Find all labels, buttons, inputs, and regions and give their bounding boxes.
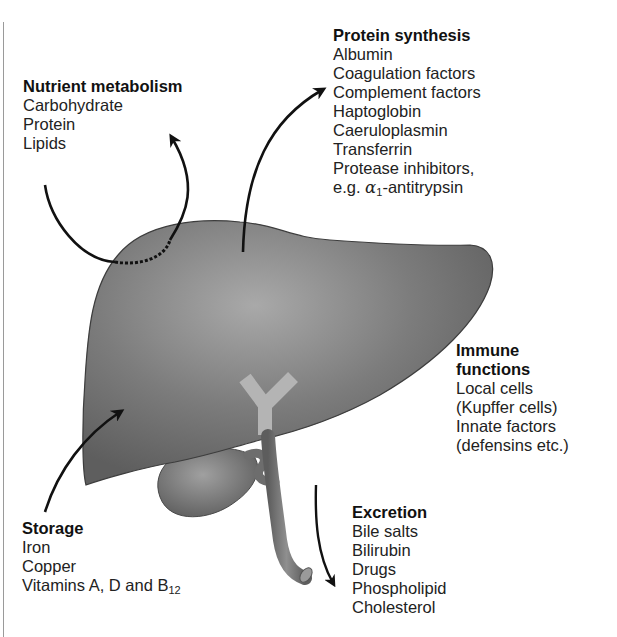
protein-item: Caeruloplasmin [333,121,481,140]
antitrypsin-suffix: -antitrypsin [382,178,463,196]
immune-title-line2: functions [456,360,569,379]
storage-label: Storage Iron Copper Vitamins A, D and B1… [22,519,181,595]
nutrient-item: Protein [23,115,183,134]
nutrient-item: Carbohydrate [23,96,183,115]
nutrient-metabolism-title: Nutrient metabolism [23,77,183,96]
protein-item: Transferrin [333,140,481,159]
storage-item-vitamins: Vitamins A, D and B12 [22,576,181,595]
nutrient-item: Lipids [23,134,183,153]
excretion-item: Drugs [352,560,447,579]
immune-functions-label: Immune functions Local cells (Kupffer ce… [456,341,569,455]
excretion-item: Bilirubin [352,541,447,560]
vitamins-text: Vitamins A, D and B [22,576,168,594]
protein-item: Protease inhibitors, [333,159,481,178]
excretion-item: Bile salts [352,522,447,541]
immune-item: Local cells [456,379,569,398]
excretion-item: Phospholipid [352,579,447,598]
protein-item: Albumin [333,45,481,64]
protein-item: Coagulation factors [333,64,481,83]
protein-item: Complement factors [333,83,481,102]
protein-synthesis-label: Protein synthesis Albumin Coagulation fa… [333,26,481,197]
immune-item: (Kupffer cells) [456,398,569,417]
immune-item: Innate factors [456,417,569,436]
liver [83,221,493,485]
storage-item: Copper [22,557,181,576]
storage-item: Iron [22,538,181,557]
antitrypsin-prefix: e.g. [333,178,365,196]
protein-synthesis-title: Protein synthesis [333,26,481,45]
excretion-label: Excretion Bile salts Bilirubin Drugs Pho… [352,503,447,617]
alpha-symbol: α [365,178,376,197]
common-bile-duct [268,436,305,578]
protein-item-antitrypsin: e.g. α1-antitrypsin [333,178,481,197]
b12-subscript: 12 [168,584,180,596]
immune-title-line1: Immune [456,341,569,360]
excretion-title: Excretion [352,503,447,522]
protein-item: Haptoglobin [333,102,481,121]
nutrient-metabolism-label: Nutrient metabolism Carbohydrate Protein… [23,77,183,153]
excretion-item: Cholesterol [352,598,447,617]
storage-title: Storage [22,519,181,538]
excretion-arrow [316,485,333,583]
immune-item: (defensins etc.) [456,436,569,455]
